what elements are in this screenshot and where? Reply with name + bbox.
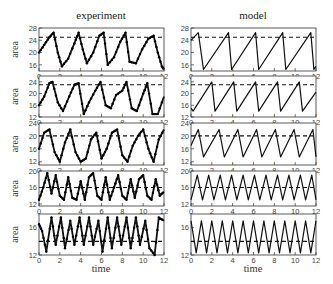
data-marker (145, 188, 147, 190)
data-marker (137, 58, 139, 60)
data-marker (44, 244, 46, 246)
data-marker (56, 234, 58, 236)
data-marker (117, 225, 119, 227)
data-marker (139, 133, 141, 135)
figure: experiment model time time 1620242802468… (0, 0, 333, 284)
data-marker (64, 141, 66, 143)
data-marker (99, 149, 101, 151)
data-marker (40, 49, 42, 51)
data-marker (97, 220, 99, 222)
data-marker (105, 176, 107, 178)
data-marker (156, 184, 158, 186)
data-marker (85, 157, 87, 159)
data-marker (88, 216, 90, 218)
data-marker (137, 135, 139, 137)
data-marker (77, 31, 79, 33)
data-marker (127, 51, 129, 53)
data-marker (98, 84, 100, 86)
y-axis-label: area (9, 135, 20, 152)
x-tick-label: 8 (272, 256, 276, 265)
data-marker (157, 51, 159, 53)
x-tick-label: 2 (210, 256, 214, 265)
data-marker (110, 107, 112, 109)
data-marker (106, 148, 108, 150)
data-marker (109, 237, 111, 239)
data-marker (92, 172, 94, 174)
data-marker (41, 98, 43, 100)
data-marker (75, 199, 77, 201)
data-marker (76, 35, 78, 37)
data-marker (56, 181, 58, 183)
y-tick-label: 20 (181, 48, 189, 57)
data-marker (86, 151, 88, 153)
data-marker (153, 185, 155, 187)
data-marker (153, 254, 155, 256)
data-marker (84, 109, 86, 111)
data-marker (142, 228, 144, 230)
data-marker (159, 135, 161, 137)
data-marker (66, 100, 68, 102)
data-marker (125, 199, 127, 201)
data-marker (139, 53, 141, 55)
data-marker (83, 53, 85, 55)
y-tick-label: 16 (181, 145, 189, 154)
data-marker (95, 228, 97, 230)
data-marker (117, 46, 119, 48)
data-marker (57, 101, 59, 103)
data-marker (72, 88, 74, 90)
data-marker (135, 62, 137, 64)
data-marker (124, 84, 126, 86)
model-row3-panel: 12162024024681012 (181, 119, 321, 175)
x-tick-label: 0 (189, 256, 193, 265)
data-marker (131, 61, 133, 63)
data-marker (80, 180, 82, 182)
data-marker (154, 153, 156, 155)
data-marker (72, 236, 74, 238)
data-marker (124, 225, 126, 227)
data-marker (55, 45, 57, 47)
y-axis-label: area (9, 88, 20, 105)
data-marker (97, 140, 99, 142)
data-marker (155, 241, 157, 243)
data-marker (96, 40, 98, 42)
data-marker (71, 47, 73, 49)
y-tick-label: 24 (29, 78, 37, 87)
data-marker (125, 216, 127, 218)
data-marker (41, 230, 43, 232)
data-marker (101, 89, 103, 91)
data-marker (61, 65, 63, 67)
data-marker (86, 225, 88, 227)
data-marker (66, 238, 68, 240)
data-marker (40, 142, 42, 144)
data-marker (55, 94, 57, 96)
data-marker (100, 240, 102, 242)
data-marker (63, 237, 65, 239)
data-marker (161, 101, 163, 103)
data-marker (107, 216, 109, 218)
data-marker (71, 136, 73, 138)
data-marker (67, 229, 69, 231)
data-marker (73, 244, 75, 246)
data-marker (118, 137, 120, 139)
y-tick-label: 16 (29, 61, 37, 70)
data-marker (68, 183, 70, 185)
data-marker (128, 155, 130, 157)
data-marker (61, 227, 63, 229)
data-marker (57, 157, 59, 159)
data-marker (67, 58, 69, 60)
data-marker (116, 178, 118, 180)
data-marker (120, 244, 122, 246)
column-title-experiment: experiment (76, 9, 125, 21)
y-tick-label: 16 (181, 61, 189, 70)
x-tick-label: 6 (251, 256, 255, 265)
model-row1-panel: 16202428024681012 (181, 24, 321, 81)
data-marker (92, 51, 94, 53)
y-tick-label: 16 (181, 101, 189, 110)
data-marker (58, 104, 60, 106)
data-marker (69, 128, 71, 130)
data-marker (123, 35, 125, 37)
y-tick-label: 20 (29, 167, 37, 176)
data-marker (150, 249, 152, 251)
model-row2-panel: 12162024024681012 (181, 76, 321, 127)
data-marker (159, 107, 161, 109)
